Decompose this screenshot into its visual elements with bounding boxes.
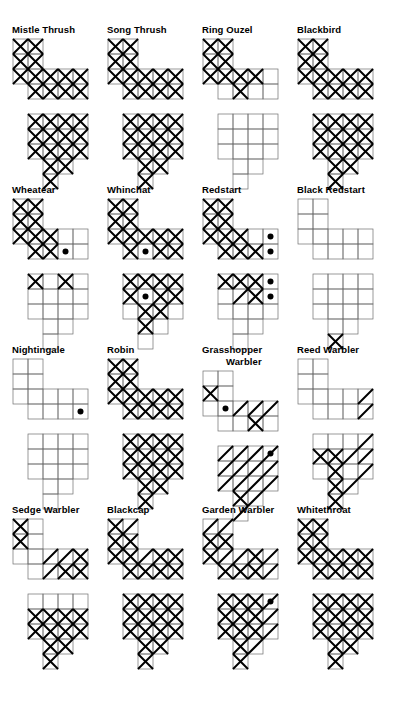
- map-gridlines: [203, 199, 278, 349]
- distribution-map-black-redstart: [297, 198, 389, 350]
- distribution-map-sedge-warbler: [12, 518, 104, 670]
- map-figure-sedge-warbler: [12, 518, 104, 670]
- map-title-blackcap: Blackcap: [107, 504, 203, 516]
- map-panel-whitethroat[interactable]: Whitethroat: [297, 504, 392, 664]
- map-panel-ring-ouzel[interactable]: Ring Ouzel: [202, 24, 297, 184]
- map-panel-whinchat[interactable]: Whinchat: [107, 184, 202, 344]
- map-figure-reed-warbler: [297, 358, 389, 510]
- map-panel-sedge-warbler[interactable]: Sedge Warbler: [12, 504, 107, 664]
- map-figure-whinchat: [107, 198, 199, 350]
- distribution-map-grasshopper-warbler: [202, 370, 294, 522]
- map-title-whitethroat: Whitethroat: [297, 504, 393, 516]
- map-figure-redstart: [202, 198, 294, 350]
- map-figure-mistle-thrush: [12, 38, 104, 190]
- map-figure-nightingale: [12, 358, 104, 510]
- map-gridlines: [13, 359, 88, 509]
- map-panel-robin[interactable]: Robin: [107, 344, 202, 504]
- distribution-map-blackcap: [107, 518, 199, 670]
- map-gridlines: [13, 199, 88, 349]
- map-panel-nightingale[interactable]: Nightingale: [12, 344, 107, 504]
- distribution-map-ring-ouzel: [202, 38, 294, 190]
- distribution-map-robin: [107, 358, 199, 510]
- map-title-reed-warbler: Reed Warbler: [297, 344, 393, 356]
- map-title-whinchat: Whinchat: [107, 184, 203, 196]
- map-title-song-thrush: Song Thrush: [107, 24, 203, 36]
- map-figure-blackbird: [297, 38, 389, 190]
- map-title-nightingale: Nightingale: [12, 344, 108, 356]
- map-title-robin: Robin: [107, 344, 203, 356]
- map-panel-grid: Mistle ThrushSong ThrushRing OuzelBlackb…: [0, 0, 396, 703]
- map-panel-grasshopper-warbler[interactable]: GrasshopperWarbler: [202, 344, 297, 504]
- map-hatching: [203, 386, 278, 521]
- distribution-map-mistle-thrush: [12, 38, 104, 190]
- map-panel-black-redstart[interactable]: Black Redstart: [297, 184, 392, 344]
- map-panel-blackbird[interactable]: Blackbird: [297, 24, 392, 184]
- map-gridlines: [203, 39, 278, 189]
- map-title-grasshopper-warbler: GrasshopperWarbler: [202, 344, 298, 367]
- map-gridlines: [298, 199, 373, 349]
- distribution-map-garden-warbler: [202, 518, 294, 670]
- map-title-blackbird: Blackbird: [297, 24, 393, 36]
- map-hatching: [108, 199, 183, 334]
- map-title-ring-ouzel: Ring Ouzel: [202, 24, 298, 36]
- map-panel-wheatear[interactable]: Wheatear: [12, 184, 107, 344]
- map-panel-blackcap[interactable]: Blackcap: [107, 504, 202, 664]
- distribution-map-nightingale: [12, 358, 104, 510]
- map-title-line-1: Grasshopper: [202, 344, 262, 355]
- map-figure-garden-warbler: [202, 518, 294, 670]
- distribution-map-reed-warbler: [297, 358, 389, 510]
- map-figure-grasshopper-warbler: [202, 370, 294, 522]
- map-panel-redstart[interactable]: Redstart: [202, 184, 297, 344]
- map-record-dots: [268, 234, 274, 300]
- map-title-garden-warbler: Garden Warbler: [202, 504, 298, 516]
- map-figure-wheatear: [12, 198, 104, 350]
- map-figure-whitethroat: [297, 518, 389, 670]
- map-panel-reed-warbler[interactable]: Reed Warbler: [297, 344, 392, 504]
- map-figure-ring-ouzel: [202, 38, 294, 190]
- map-record-dots: [63, 249, 69, 255]
- map-title-redstart: Redstart: [202, 184, 298, 196]
- distribution-map-whinchat: [107, 198, 199, 350]
- bird-distribution-sheet: Mistle ThrushSong ThrushRing OuzelBlackb…: [0, 0, 396, 703]
- map-record-dots: [268, 599, 274, 605]
- map-title-sedge-warbler: Sedge Warbler: [12, 504, 108, 516]
- distribution-map-redstart: [202, 198, 294, 350]
- distribution-map-wheatear: [12, 198, 104, 350]
- map-figure-song-thrush: [107, 38, 199, 190]
- map-figure-blackcap: [107, 518, 199, 670]
- map-record-dots: [78, 409, 84, 415]
- map-panel-song-thrush[interactable]: Song Thrush: [107, 24, 202, 184]
- map-figure-robin: [107, 358, 199, 510]
- distribution-map-whitethroat: [297, 518, 389, 670]
- distribution-map-blackbird: [297, 38, 389, 190]
- map-title-wheatear: Wheatear: [12, 184, 108, 196]
- map-figure-black-redstart: [297, 198, 389, 350]
- map-panel-mistle-thrush[interactable]: Mistle Thrush: [12, 24, 107, 184]
- distribution-map-song-thrush: [107, 38, 199, 190]
- map-title-line-2: Warbler: [202, 356, 298, 368]
- map-panel-garden-warbler[interactable]: Garden Warbler: [202, 504, 297, 664]
- map-title-mistle-thrush: Mistle Thrush: [12, 24, 108, 36]
- map-title-black-redstart: Black Redstart: [297, 184, 393, 196]
